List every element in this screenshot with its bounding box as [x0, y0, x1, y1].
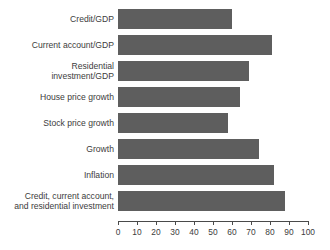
bar-category-label: Credit, current account,and residential …: [6, 188, 118, 214]
bar-category-label-line: Credit, current account,: [25, 191, 114, 201]
bar-track: [118, 110, 308, 136]
x-axis-tick: [251, 221, 252, 225]
plot-area: Credit/GDPCurrent account/GDPResidential…: [0, 0, 330, 250]
bar[interactable]: [118, 113, 228, 133]
bar-track: [118, 162, 308, 188]
bar-row: Current account/GDP: [0, 32, 330, 58]
x-axis-tick-label: 10: [132, 227, 141, 237]
x-axis-tick: [137, 221, 138, 225]
x-axis-tick: [270, 221, 271, 225]
x-axis-tick-label: 20: [151, 227, 160, 237]
bar-row: House price growth: [0, 84, 330, 110]
x-axis: 0102030405060708090100: [118, 221, 308, 222]
x-axis-tick: [156, 221, 157, 225]
x-axis-tick: [118, 221, 119, 225]
bar-category-label: Inflation: [6, 162, 118, 188]
bar-track: [118, 6, 308, 32]
bar-chart: Credit/GDPCurrent account/GDPResidential…: [0, 0, 330, 250]
bar-track: [118, 136, 308, 162]
x-axis-tick: [289, 221, 290, 225]
x-axis-tick-label: 40: [189, 227, 198, 237]
bar-row: Credit, current account,and residential …: [0, 188, 330, 214]
bar[interactable]: [118, 9, 232, 29]
bar-category-label: Current account/GDP: [6, 32, 118, 58]
x-axis-tick: [232, 221, 233, 225]
bar-track: [118, 84, 308, 110]
bar-category-label-line: Growth: [86, 144, 114, 154]
x-axis-tick: [213, 221, 214, 225]
bar-category-label-line: Stock price growth: [43, 118, 114, 128]
bar-category-label: Stock price growth: [6, 110, 118, 136]
bar-category-label-line: and residential investment: [14, 201, 114, 211]
bar-track: [118, 188, 308, 214]
bar-row: Credit/GDP: [0, 6, 330, 32]
bar-row: Inflation: [0, 162, 330, 188]
bar[interactable]: [118, 87, 240, 107]
bar-category-label: Credit/GDP: [6, 6, 118, 32]
bar-category-label-line: investment/GDP: [51, 71, 114, 81]
x-axis-tick-label: 0: [116, 227, 121, 237]
bar[interactable]: [118, 139, 259, 159]
x-axis-tick-label: 50: [208, 227, 217, 237]
bar-row: Stock price growth: [0, 110, 330, 136]
x-axis-tick-label: 80: [265, 227, 274, 237]
x-axis-tick-label: 60: [227, 227, 236, 237]
bar-category-label: Residentialinvestment/GDP: [6, 58, 118, 84]
bar-category-label-line: Current account/GDP: [32, 40, 114, 50]
x-axis-tick: [175, 221, 176, 225]
bar-track: [118, 32, 308, 58]
bar-category-label-line: Residential: [71, 61, 114, 71]
bar-row: Residentialinvestment/GDP: [0, 58, 330, 84]
bar-category-label-line: Inflation: [84, 170, 114, 180]
bar[interactable]: [118, 61, 249, 81]
bar-category-label-line: House price growth: [40, 92, 114, 102]
x-axis-tick-label: 100: [301, 227, 315, 237]
bar[interactable]: [118, 191, 285, 211]
bar-category-label: House price growth: [6, 84, 118, 110]
x-axis-tick-label: 70: [246, 227, 255, 237]
bar-row: Growth: [0, 136, 330, 162]
x-axis-tick-label: 30: [170, 227, 179, 237]
bar-category-label-line: Credit/GDP: [70, 14, 114, 24]
bar[interactable]: [118, 35, 272, 55]
x-axis-tick: [194, 221, 195, 225]
bar[interactable]: [118, 165, 274, 185]
bar-rows: Credit/GDPCurrent account/GDPResidential…: [0, 6, 330, 214]
bar-track: [118, 58, 308, 84]
x-axis-tick-label: 90: [284, 227, 293, 237]
x-axis-tick: [308, 221, 309, 225]
bar-category-label: Growth: [6, 136, 118, 162]
